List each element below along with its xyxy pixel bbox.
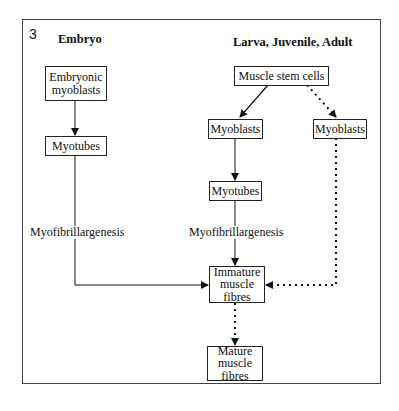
label-embryo-myofibrillargenesis: Myofibrillargenesis	[30, 226, 124, 239]
node-myoblasts-solid: Myoblasts	[208, 119, 263, 139]
node-embryo-myotubes: Myotubes	[45, 136, 107, 156]
node-mature-muscle-fibres: Mature muscle fibres	[207, 346, 263, 381]
node-adult-myotubes: Myotubes	[209, 181, 262, 201]
node-embryonic-myoblasts: Embryonic myoblasts	[45, 66, 107, 101]
larva-juvenile-adult-heading: Larva, Juvenile, Adult	[233, 36, 352, 49]
node-myoblasts-dotted: Myoblasts	[313, 119, 367, 139]
node-muscle-stem-cells: Muscle stem cells	[234, 66, 329, 86]
arrow-stem-to-myoblasts	[240, 85, 268, 117]
arrow-stem-to-myoblasts-dotted	[307, 85, 336, 117]
embryo-heading: Embryo	[58, 33, 102, 46]
arrow-embryo-myotubes-to-immature	[75, 156, 208, 285]
label-adult-myofibrillargenesis: Myofibrillargenesis	[189, 226, 283, 239]
panel-number: 3	[29, 28, 37, 41]
connector-arrows	[0, 0, 399, 411]
arrow-dotted-myoblasts-to-immature	[266, 138, 336, 285]
node-immature-muscle-fibres: Immature muscle fibres	[209, 266, 265, 303]
